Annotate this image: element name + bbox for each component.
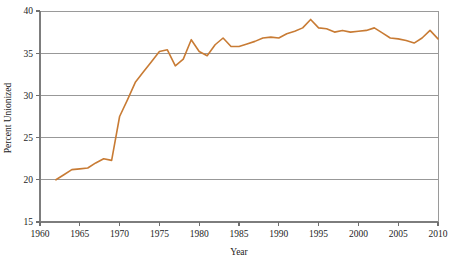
x-axis-title: Year [230,247,248,257]
line-chart: 152025303540 196019651970197519801985199… [0,0,455,260]
y-tick-label-15: 15 [24,217,34,227]
x-tick-label-1960: 1960 [31,229,50,239]
x-tick-label-2010: 2010 [429,229,448,239]
x-tick-label-1965: 1965 [70,229,89,239]
y-tick-label-25: 25 [24,133,34,143]
x-tick-label-2005: 2005 [389,229,408,239]
y-tick-label-35: 35 [24,49,34,59]
y-tick-label-20: 20 [24,175,34,185]
chart-container: 152025303540 196019651970197519801985199… [0,0,455,260]
x-tick-label-1980: 1980 [190,229,209,239]
y-tick-label-40: 40 [24,6,34,16]
x-tick-label-1975: 1975 [150,229,169,239]
chart-background [0,0,455,260]
x-tick-label-1985: 1985 [230,229,249,239]
y-axis-title: Percent Unionized [3,83,13,154]
x-tick-label-1970: 1970 [110,229,129,239]
x-tick-label-2000: 2000 [349,229,368,239]
y-tick-label-30: 30 [24,91,34,101]
x-tick-label-1990: 1990 [269,229,288,239]
x-tick-label-1995: 1995 [309,229,328,239]
